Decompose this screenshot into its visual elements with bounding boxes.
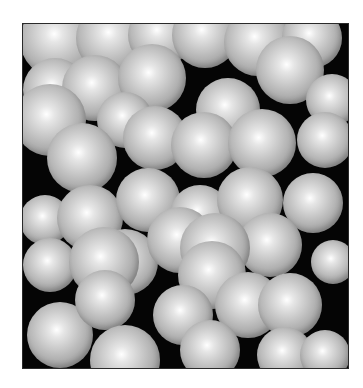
sphere: [47, 123, 117, 193]
sphere: [297, 112, 348, 168]
sphere: [90, 325, 160, 368]
sphere: [300, 330, 348, 368]
sphere-packing-image: [23, 24, 348, 368]
sphere: [75, 270, 135, 330]
sphere: [228, 109, 296, 177]
sphere: [311, 240, 348, 284]
